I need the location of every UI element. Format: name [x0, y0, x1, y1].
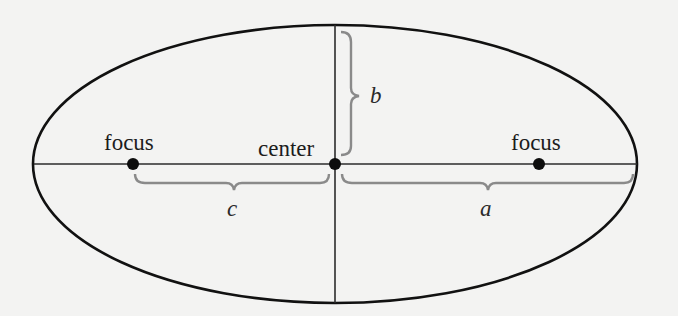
semi-major-label-a: a: [480, 197, 492, 220]
center-label: center: [258, 137, 314, 160]
center-point: [329, 158, 341, 170]
semi-major-brace: [342, 174, 633, 190]
ellipse-figure: [0, 0, 678, 316]
semi-minor-brace: [341, 32, 359, 155]
ellipse-diagram: focus center focus b c a: [0, 0, 678, 316]
focus-left-label: focus: [104, 131, 154, 154]
semi-minor-label-b: b: [370, 84, 382, 107]
focal-distance-label-c: c: [227, 197, 237, 220]
focal-distance-brace: [135, 174, 329, 190]
focus-left-point: [127, 158, 139, 170]
focus-right-label: focus: [511, 131, 561, 154]
focus-right-point: [533, 158, 545, 170]
